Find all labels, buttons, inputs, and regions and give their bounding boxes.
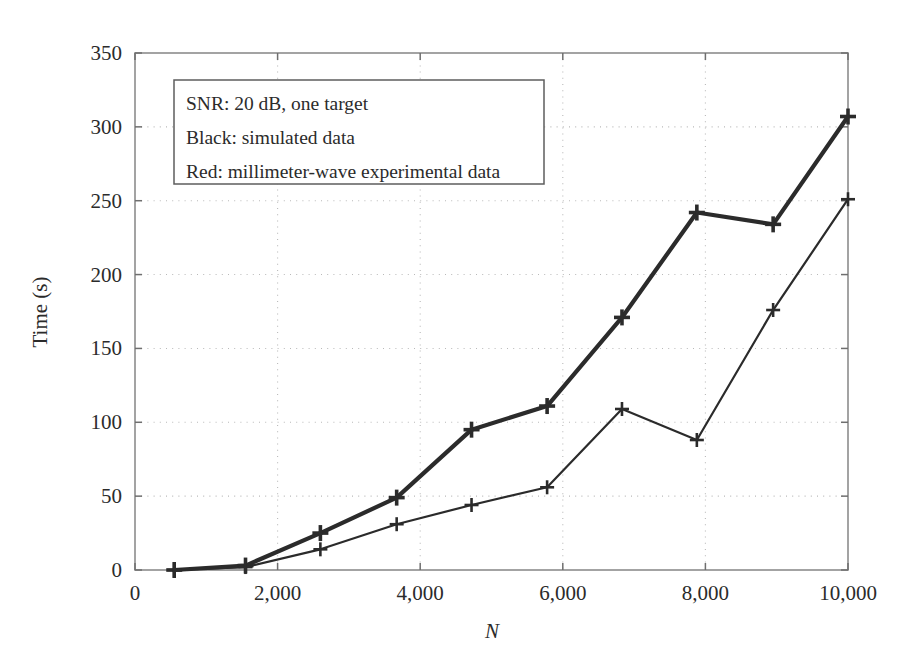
y-tick-label: 350 [91,41,123,65]
legend-line-red: Red: millimeter-wave experimental data [186,161,501,182]
legend-line-black: Black: simulated data [186,127,355,148]
y-tick-label: 0 [112,558,123,582]
x-axis-title: N [484,619,500,643]
x-tick-label: 6,000 [539,581,586,605]
y-tick-label: 200 [91,263,123,287]
x-tick-label: 8,000 [682,581,729,605]
x-tick-label: 2,000 [254,581,301,605]
x-tick-label: 4,000 [397,581,444,605]
legend-box: SNR: 20 dB, one target Black: simulated … [174,80,544,184]
y-axis-title: Time (s) [28,277,52,348]
x-tick-label: 0 [130,581,141,605]
figure-container: 02,0004,0006,0008,00010,000 050100150200… [0,0,918,659]
y-tick-label: 150 [91,336,123,360]
x-tick-label: 10,000 [819,581,877,605]
y-tick-label: 300 [91,115,123,139]
legend-line-snr: SNR: 20 dB, one target [186,93,369,114]
y-tick-label: 50 [101,484,122,508]
y-tick-label: 250 [91,189,123,213]
y-tick-label: 100 [91,410,123,434]
line-chart: 02,0004,0006,0008,00010,000 050100150200… [0,0,918,659]
